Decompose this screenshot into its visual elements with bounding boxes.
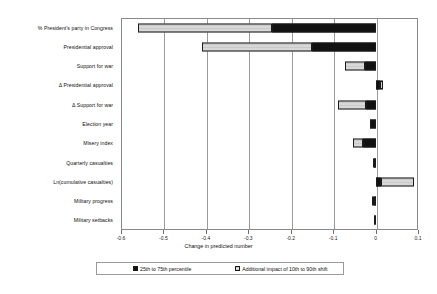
x-tick-label: -0.1 [329, 235, 338, 241]
bar-row [121, 158, 418, 167]
bar-row [121, 42, 418, 51]
bars-layer [121, 18, 418, 230]
bar-segment-percentile [374, 197, 376, 206]
category-label: Presidential approval [0, 44, 113, 50]
y-axis-category-labels: % President's party in CongressPresident… [0, 18, 117, 230]
x-axis: -0.6-0.5-0.4-0.3-0.2-0.100.1 [121, 230, 418, 231]
x-tick [206, 230, 207, 234]
category-label: Misery index [0, 140, 113, 146]
x-tick [163, 230, 164, 234]
x-tick-label: -0.2 [286, 235, 295, 241]
bar-segment-percentile [312, 42, 376, 51]
category-label: Support for war [0, 63, 113, 69]
legend-item-additional: Additional impact of 10th to 90th shift [235, 266, 327, 272]
bar-segment-percentile [366, 100, 375, 109]
x-tick [248, 230, 249, 234]
bar-row [121, 23, 418, 32]
bar-segment-additional [138, 23, 272, 32]
bar-row [121, 81, 418, 90]
category-label: Ln(cumulative casualties) [0, 179, 113, 185]
x-axis-title: Change in predicted number [0, 243, 437, 249]
category-label: % President's party in Congress [0, 25, 113, 31]
bar-segment-additional [202, 42, 312, 51]
bar-row [121, 139, 418, 148]
bar-segment-additional [353, 139, 363, 148]
x-tick [121, 230, 122, 234]
category-label: Military setbacks [0, 217, 113, 223]
bar-segment-percentile [374, 216, 376, 225]
category-label: Quarterly casualties [0, 160, 113, 166]
bar-segment-percentile [272, 23, 376, 32]
bar-segment-percentile [365, 62, 376, 71]
bar-row [121, 177, 418, 186]
bar-segment-percentile [370, 120, 376, 129]
category-label: Δ Presidential approval [0, 82, 113, 88]
legend-item-percentile: 25th to 75th percentile [133, 266, 191, 272]
bar-segment-percentile [363, 139, 376, 148]
x-tick-label: -0.5 [159, 235, 168, 241]
bar-row [121, 120, 418, 129]
bar-segment-additional [345, 62, 365, 71]
x-tick [333, 230, 334, 234]
chart-legend: 25th to 75th percentile Additional impac… [96, 262, 344, 275]
x-tick-label: 0 [374, 235, 377, 241]
category-label: Δ Support for war [0, 102, 113, 108]
category-label: Military progress [0, 198, 113, 204]
bar-segment-percentile [374, 158, 376, 167]
legend-label-additional: Additional impact of 10th to 90th shift [242, 266, 327, 272]
x-tick-label: -0.4 [202, 235, 211, 241]
x-tick-label: -0.3 [244, 235, 253, 241]
legend-label-percentile: 25th to 75th percentile [140, 266, 191, 272]
bar-row [121, 216, 418, 225]
x-tick [291, 230, 292, 234]
x-tick-label: -0.6 [117, 235, 126, 241]
x-tick [376, 230, 377, 234]
bar-segment-additional [338, 100, 366, 109]
bar-segment-percentile [376, 177, 381, 186]
legend-swatch-dark-icon [133, 266, 138, 271]
x-tick [418, 230, 419, 234]
bar-segment-additional [380, 81, 383, 90]
legend-swatch-hatched-icon [235, 266, 240, 271]
bar-row [121, 100, 418, 109]
chart-root: % President's party in CongressPresident… [0, 0, 437, 294]
bar-segment-additional [381, 177, 414, 186]
bar-row [121, 62, 418, 71]
bar-row [121, 197, 418, 206]
x-tick-label: 0.1 [415, 235, 422, 241]
bar-segment-percentile [376, 81, 380, 90]
category-label: Election year [0, 121, 113, 127]
